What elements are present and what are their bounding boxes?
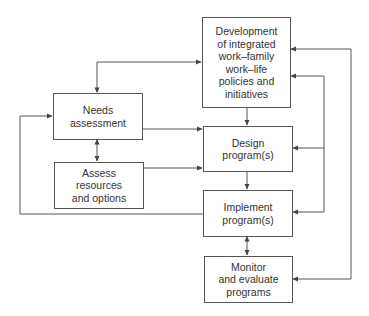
node-design-programs: Design program(s) [203,126,293,172]
edge-inner-development [291,76,324,212]
node-needs-assessment: Needs assessment [53,93,143,140]
node-assess-resources: Assess resources and options [54,162,144,209]
node-monitor-evaluate: Monitor and evaluate programs [204,256,293,303]
node-implement-programs: Implement program(s) [203,190,293,237]
node-implement-programs-label: Implement program(s) [222,201,273,226]
edge-needs-development [97,62,201,92]
node-monitor-evaluate-label: Monitor and evaluate programs [218,261,278,299]
node-development: Development of integrated work–family wo… [202,17,291,108]
node-needs-assessment-label: Needs assessment [70,104,126,129]
node-development-label: Development of integrated work–family wo… [216,25,278,100]
node-design-programs-label: Design program(s) [222,137,273,162]
node-assess-resources-label: Assess resources and options [72,167,126,205]
edge-outer-development [291,49,351,279]
connector-lines [0,0,369,316]
